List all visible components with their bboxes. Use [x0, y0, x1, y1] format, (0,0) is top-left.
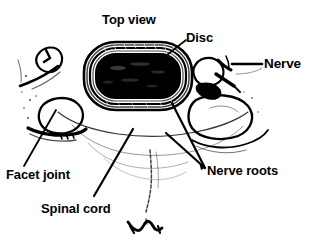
- spinous-process-tip: [128, 221, 162, 230]
- right-facet-inner-contour: [210, 106, 238, 112]
- label-disc: Disc: [186, 31, 213, 44]
- vertebral-body-contour-b: [88, 143, 188, 168]
- vertebral-body-superior-edge: [58, 112, 248, 136]
- spinous-process-ridge-shadow: [156, 152, 158, 188]
- nerve-branch-tip: [234, 86, 240, 92]
- left-outer-edge-stroke: [18, 60, 21, 82]
- spinous-tip-center-prong: [146, 219, 147, 224]
- left-process-notch: [44, 50, 50, 62]
- right-upper-sketch-stroke: [236, 68, 262, 74]
- figure-canvas: Top view Disc Nerve Nerve roots Facet jo…: [0, 0, 316, 249]
- right-process-nerve-group: [189, 56, 268, 153]
- spinous-process-ridge: [146, 150, 151, 212]
- disc-nucleus-core: [96, 54, 180, 98]
- disc-structure-group: [84, 42, 192, 110]
- label-nerve-roots: Nerve roots: [207, 164, 278, 177]
- label-spinal-cord: Spinal cord: [41, 202, 111, 215]
- right-facet-lobe: [189, 95, 253, 139]
- nerve-branch-lower: [216, 74, 234, 86]
- vertebra-outline-group: [58, 112, 248, 212]
- vertebral-body-contour-c: [104, 158, 186, 180]
- label-nerve: Nerve: [264, 57, 301, 71]
- spinal-cord-leader-line: [94, 129, 133, 196]
- spinous-tip-right-prong: [158, 226, 160, 233]
- label-top-view: Top view: [102, 13, 156, 26]
- spinous-process-tip-group: [128, 219, 162, 233]
- label-facet-joint: Facet joint: [6, 168, 70, 181]
- left-facet-process-group: [18, 48, 86, 142]
